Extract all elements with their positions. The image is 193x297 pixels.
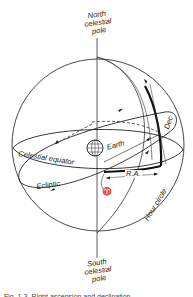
earth-globe bbox=[87, 140, 103, 156]
celestial-sphere-diagram bbox=[0, 0, 193, 297]
figure-caption: Fig. 1-3. Right ascension and declinatio… bbox=[4, 291, 193, 297]
north-pole-label: North celestial pole bbox=[79, 9, 118, 38]
south-pole-label: South celestial pole bbox=[79, 257, 118, 286]
right-ascension-label: R.A. bbox=[125, 170, 142, 178]
dashed-line-back bbox=[55, 124, 92, 144]
vernal-equinox-symbol: ♈ bbox=[102, 188, 112, 196]
